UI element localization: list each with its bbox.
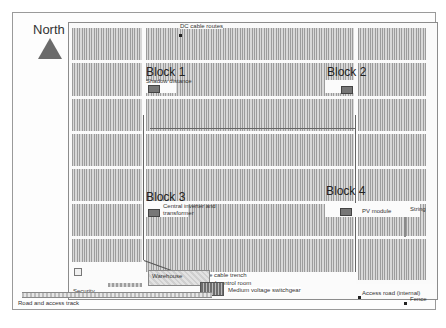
shadow-distance-label: Shadow distance xyxy=(146,78,192,84)
cable-line-top xyxy=(150,128,355,129)
road-and-access-track xyxy=(22,292,212,298)
access-road-pointer xyxy=(358,296,361,299)
security-building-icon xyxy=(74,268,82,276)
mv-switchgear-label: Medium voltage switchgear xyxy=(228,287,301,293)
block-1-label: Block 1 xyxy=(146,65,185,79)
pv-module-label: PV module xyxy=(362,208,391,214)
pv-field-east xyxy=(358,28,426,280)
pv-field-west xyxy=(72,28,142,284)
central-inverter-label: Central inverter and xyxy=(163,203,216,209)
north-label: North xyxy=(33,22,65,37)
row-gap xyxy=(72,96,426,99)
string-highlight xyxy=(404,217,406,237)
block-2-label: Block 2 xyxy=(327,65,366,79)
block-1-inverter-icon xyxy=(148,85,160,93)
row-gap xyxy=(72,60,426,63)
north-arrow-icon xyxy=(38,38,62,59)
parking-area xyxy=(108,283,142,287)
block-3-label: Block 3 xyxy=(146,190,185,204)
string-label: String xyxy=(410,206,426,212)
block-4-label: Block 4 xyxy=(326,184,365,198)
row-gap xyxy=(72,166,426,169)
row-gap xyxy=(72,131,426,134)
transformer-label: transformer xyxy=(163,210,194,216)
block-4-inverter-icon xyxy=(340,208,352,216)
dc-cable-pointer xyxy=(179,34,182,37)
block-2-inverter-icon xyxy=(341,86,353,94)
cable-line-west xyxy=(143,115,144,260)
dc-cable-routes-label: DC cable routes xyxy=(180,23,223,29)
block-3-inverter-icon xyxy=(148,209,160,217)
fence-pointer xyxy=(404,302,407,305)
road-access-track-label: Road and access track xyxy=(18,300,79,306)
row-gap xyxy=(72,236,426,239)
fence-label: Fence xyxy=(410,296,427,302)
warehouse-label: Warehouse xyxy=(152,273,182,279)
